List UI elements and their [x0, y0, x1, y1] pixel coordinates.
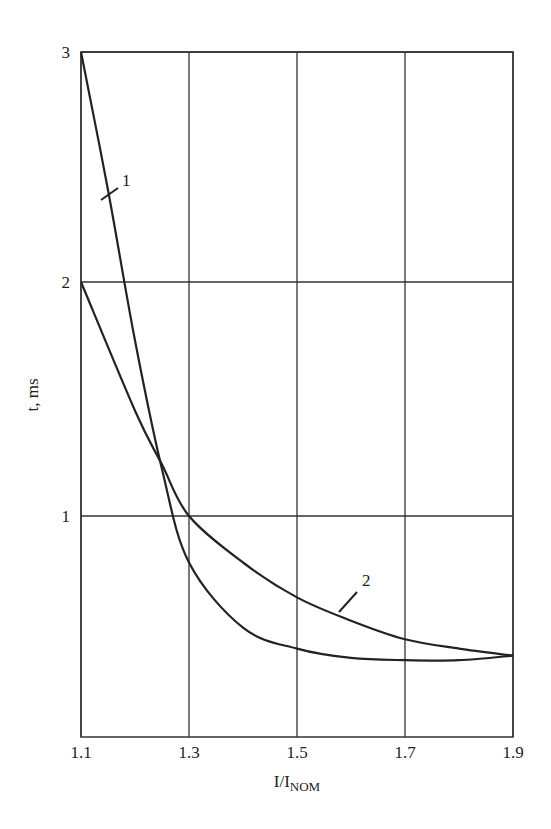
- x-axis-label-main: I/I: [274, 772, 290, 791]
- y-tick-label: 2: [62, 273, 71, 292]
- x-tick-label: 1.1: [70, 743, 91, 762]
- x-tick-label: 1.3: [178, 743, 199, 762]
- x-axis-label-subscript: NOM: [290, 779, 321, 794]
- curve-1-label: 1: [122, 171, 131, 190]
- y-tick-label: 3: [62, 43, 71, 62]
- y-axis-label: t, ms: [23, 378, 42, 411]
- x-tick-label: 1.5: [286, 743, 307, 762]
- curve-2-label: 2: [362, 571, 371, 590]
- x-tick-label: 1.9: [502, 743, 523, 762]
- x-tick-labels: 1.11.31.51.71.9: [70, 743, 523, 762]
- y-tick-label: 1: [62, 507, 71, 526]
- x-axis-label: I/INOM: [274, 772, 321, 794]
- chart: 1.11.31.51.71.9 123 t, ms I/INOM 12: [0, 0, 551, 829]
- curve-2-leader-line: [339, 592, 357, 612]
- y-tick-labels: 123: [62, 43, 71, 526]
- curve-labels: 12: [101, 171, 371, 612]
- x-tick-label: 1.7: [394, 743, 416, 762]
